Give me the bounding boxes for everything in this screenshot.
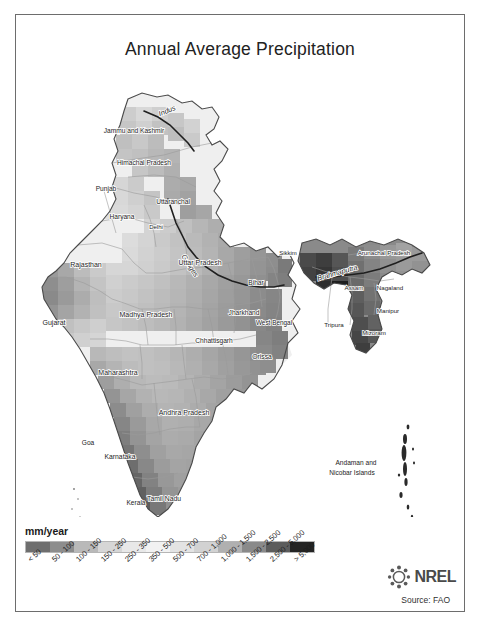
state-label: Delhi <box>149 224 163 230</box>
india-precipitation-map[interactable]: IndusGangesBrahmaputra Jammu and Kashmir… <box>16 77 465 517</box>
state-label: Himachal Pradesh <box>117 159 171 166</box>
state-label: Assam <box>345 284 364 291</box>
state-label: Chhattisgarh <box>195 337 233 345</box>
state-label: Andhra Pradesh <box>159 409 210 416</box>
map-figure: Annual Average Precipitation <box>15 14 465 612</box>
state-label: Bihar <box>248 279 264 286</box>
map-canvas[interactable]: IndusGangesBrahmaputra Jammu and Kashmir… <box>16 77 465 517</box>
island-label-layer: Andaman andNicobar Islands <box>329 459 377 476</box>
nrel-starburst-icon <box>387 565 411 589</box>
state-label: Kerala <box>126 499 145 506</box>
state-label: Jharkhand <box>229 309 260 316</box>
state-label: Tripura <box>324 321 344 328</box>
state-label: Uttar Pradesh <box>178 259 221 266</box>
source-credit: Source: FAO <box>326 595 450 605</box>
nrel-logo: NREL <box>326 565 456 589</box>
state-label: Maharashtra <box>98 369 137 376</box>
legend-tick-labels: < 5050 - 100100 - 150150 - 250250 - 3503… <box>25 553 325 599</box>
state-label: Mizoram <box>362 329 386 336</box>
state-label: West Bengal <box>256 319 292 327</box>
state-label: Arunachal Pradesh <box>358 249 411 256</box>
state-label: Nagaland <box>377 284 404 291</box>
state-label: Punjab <box>96 185 117 193</box>
legend: mm/year < 5050 - 100100 - 150150 - 25025… <box>22 525 322 599</box>
attribution-block: NREL Source: FAO <box>326 565 456 605</box>
precipitation-raster <box>16 77 465 517</box>
andaman-nicobar-islands <box>398 425 415 517</box>
state-label: Jammu and Kashmir <box>104 127 165 134</box>
state-label: Gujarat <box>43 319 66 327</box>
state-label: Manipur <box>377 307 399 314</box>
page-title: Annual Average Precipitation <box>16 39 464 60</box>
state-label: Tamil Nadu <box>147 495 181 502</box>
state-label: Goa <box>82 439 95 446</box>
lakshadweep-islands <box>71 488 81 517</box>
island-label: Andaman and <box>335 459 376 466</box>
state-label: Madhya Pradesh <box>120 311 173 319</box>
nrel-wordmark: NREL <box>414 569 456 585</box>
state-label: Uttaranchal <box>156 198 190 205</box>
state-label: Karnataka <box>105 453 136 460</box>
island-label: Nicobar Islands <box>329 469 375 476</box>
state-label: Haryana <box>110 213 135 221</box>
state-label: Rajasthan <box>70 261 102 269</box>
state-label: Sikkim <box>279 250 297 256</box>
state-label: Orissa <box>252 353 272 360</box>
